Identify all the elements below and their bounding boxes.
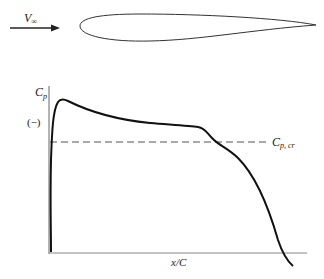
freestream-label: V∞ [24,11,37,26]
x-axis-label: x/C [170,256,187,268]
airfoil-outline [80,14,316,41]
pressure-distribution-diagram: V∞ Cp (−) x/C Cp, cr [0,0,324,279]
y-sign-label: (−) [27,116,41,129]
cp-curve [51,100,293,266]
critical-cp-label: Cp, cr [272,135,296,150]
y-axis-label: Cp [35,85,47,101]
